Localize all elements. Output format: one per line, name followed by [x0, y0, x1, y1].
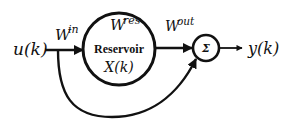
- summation-symbol: Σ: [201, 42, 210, 55]
- svg-text:in: in: [68, 23, 79, 36]
- reservoir-weight-label: W res: [110, 14, 141, 34]
- output-weight-label: W out: [165, 15, 195, 34]
- input-label: u(k): [13, 39, 48, 59]
- reservoir-diagram: u(k) W in W res Reservoir X(k) W out Σ y…: [0, 0, 286, 125]
- reservoir-title: Reservoir: [94, 42, 145, 56]
- input-weight-label: W in: [55, 23, 79, 44]
- svg-text:out: out: [177, 15, 195, 27]
- output-label: y(k): [247, 39, 279, 58]
- reservoir-state-label: X(k): [103, 59, 133, 75]
- svg-text:res: res: [123, 14, 141, 27]
